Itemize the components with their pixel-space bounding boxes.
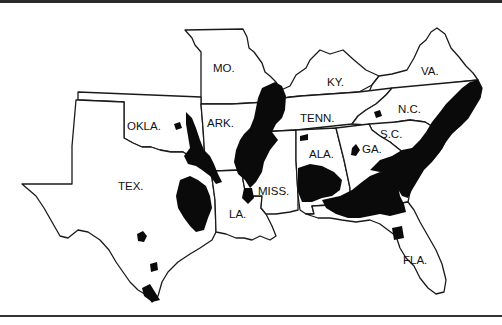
label-texas: TEX. [118,180,144,192]
label-virginia: VA. [421,65,439,77]
label-louisiana: LA. [229,208,246,220]
label-alabama: ALA. [309,148,334,160]
bottom-frame-rule [0,315,502,317]
state-florida [306,202,446,294]
shade-fla-spot [392,226,404,240]
label-kentucky: KY. [327,76,344,88]
label-missouri: MO. [213,62,235,74]
label-georgia: GA. [362,143,382,155]
label-arkansas: ARK. [207,117,234,129]
label-north-carolina: N.C. [398,103,421,115]
label-mississippi: MISS. [258,185,289,197]
label-south-carolina: S.C. [380,128,402,140]
southern-states-map: MO. KY. VA. OKLA. ARK. TENN. N.C. S.C. T… [0,0,502,325]
label-florida: FLA. [403,254,427,266]
label-oklahoma: OKLA. [127,120,161,132]
label-tennessee: TENN. [300,112,335,124]
